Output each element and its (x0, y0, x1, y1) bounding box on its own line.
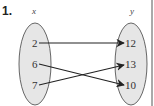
range-value: 10 (125, 79, 137, 91)
domain-value: 6 (32, 58, 38, 70)
range-label: y (129, 6, 134, 16)
range-value: 13 (125, 58, 137, 70)
domain-value: 2 (32, 37, 38, 49)
domain-label: x (31, 6, 36, 16)
range-value: 12 (125, 37, 136, 49)
domain-value: 7 (32, 79, 38, 91)
mapping-diagram: x y 2 6 7 12 13 10 (0, 0, 154, 106)
